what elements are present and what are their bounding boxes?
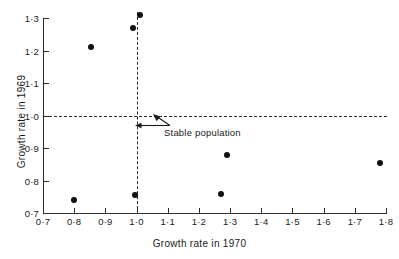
- y-tick: [44, 213, 49, 214]
- x-tick-label: 1·6: [316, 216, 330, 227]
- y-tick-label: 1·3: [25, 13, 39, 24]
- x-tick: [74, 208, 75, 213]
- y-tick-label: 1·0: [25, 110, 39, 121]
- y-tick-label: 1·1: [25, 78, 39, 89]
- x-tick-label: 1·4: [254, 216, 268, 227]
- data-point: [130, 25, 136, 31]
- y-tick: [44, 83, 49, 84]
- scatter-plot-figure: 0·70·80·91·01·11·21·31·41·51·61·71·8 0·7…: [0, 0, 399, 259]
- stable-population-horizontal-line: [44, 116, 387, 117]
- data-point: [224, 152, 230, 158]
- data-point: [137, 12, 143, 18]
- x-tick: [261, 208, 262, 213]
- y-tick: [44, 51, 49, 52]
- x-axis-line: [43, 213, 387, 214]
- x-tick: [355, 208, 356, 213]
- y-tick: [44, 18, 49, 19]
- x-tick: [168, 208, 169, 213]
- x-tick: [105, 208, 106, 213]
- x-tick: [230, 208, 231, 213]
- x-tick-label: 1·3: [223, 216, 237, 227]
- x-tick: [199, 208, 200, 213]
- y-tick-label: 1·2: [25, 45, 39, 56]
- y-tick-label: 0·8: [25, 175, 39, 186]
- x-tick-label: 1·0: [129, 216, 143, 227]
- x-tick-label: 0·8: [67, 216, 81, 227]
- data-point: [377, 160, 383, 166]
- x-tick-label: 1·8: [379, 216, 393, 227]
- data-point: [88, 44, 94, 50]
- x-tick-label: 1·2: [192, 216, 206, 227]
- data-point: [218, 191, 224, 197]
- x-axis-title: Growth rate in 1970: [0, 238, 399, 249]
- x-tick-label: 1·1: [161, 216, 175, 227]
- data-point: [71, 197, 77, 203]
- x-tick-label: 1·5: [285, 216, 299, 227]
- y-tick: [44, 148, 49, 149]
- y-tick-label: 0·7: [25, 208, 39, 219]
- x-tick: [386, 208, 387, 213]
- y-axis-title: Growth rate in 1969: [16, 42, 27, 202]
- stable-population-annotation-label: Stable population: [164, 127, 241, 138]
- y-tick-label: 0·9: [25, 143, 39, 154]
- x-tick-label: 0·9: [98, 216, 112, 227]
- y-tick: [44, 181, 49, 182]
- x-tick: [324, 208, 325, 213]
- x-tick: [292, 208, 293, 213]
- x-tick-label: 1·7: [348, 216, 362, 227]
